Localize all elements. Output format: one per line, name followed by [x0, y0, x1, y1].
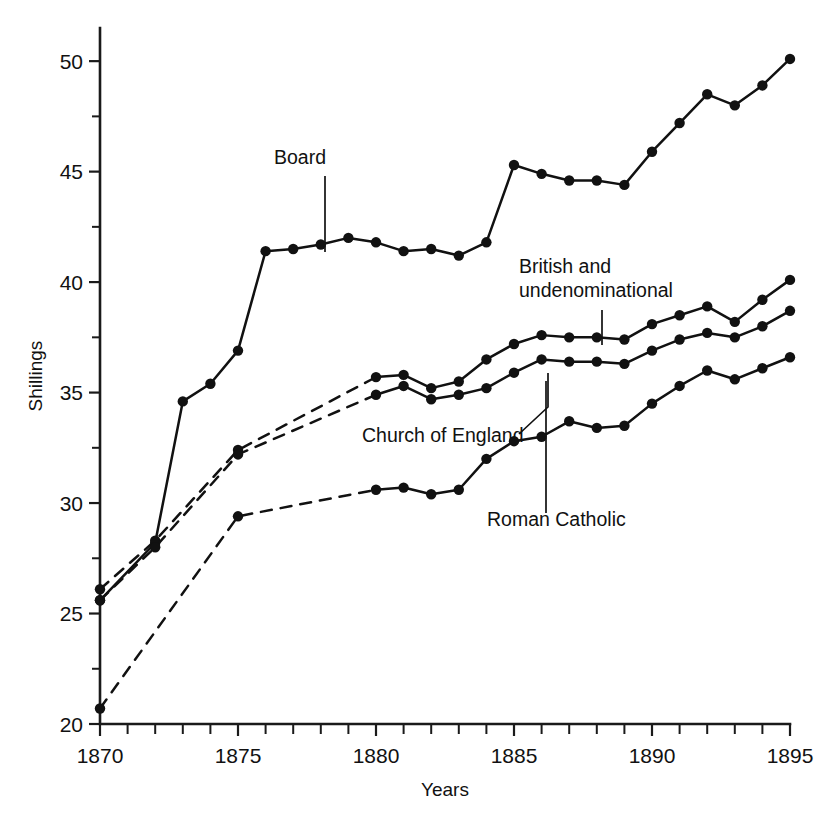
data-point-marker [233, 511, 243, 521]
data-point-marker [785, 54, 795, 64]
x-tick-label: 1875 [215, 744, 262, 767]
y-axis-title: Shillings [25, 341, 46, 412]
data-point-marker [481, 383, 491, 393]
data-point-marker [509, 367, 519, 377]
data-point-marker [647, 398, 657, 408]
data-point-marker [730, 100, 740, 110]
data-point-marker [592, 423, 602, 433]
data-point-marker [371, 372, 381, 382]
chart-root: 20253035404550187018751880188518901895 B… [0, 0, 826, 817]
data-point-marker [702, 328, 712, 338]
data-point-marker [288, 244, 298, 254]
data-point-marker [426, 489, 436, 499]
annotation-label-line: Roman Catholic [487, 508, 626, 530]
annotation-label-line: Church of England [362, 424, 524, 446]
data-point-marker [564, 416, 574, 426]
data-point-marker [702, 365, 712, 375]
x-tick-label: 1880 [353, 744, 400, 767]
data-point-marker [674, 118, 684, 128]
y-tick-label: 30 [60, 492, 83, 515]
data-point-marker [509, 339, 519, 349]
data-point-marker [564, 175, 574, 185]
annotation-label-line: British and [519, 255, 611, 277]
data-point-marker [481, 354, 491, 364]
data-point-marker [426, 383, 436, 393]
data-point-marker [757, 295, 767, 305]
y-tick-label: 20 [60, 713, 83, 736]
data-point-marker [647, 319, 657, 329]
data-point-marker [481, 454, 491, 464]
data-point-marker [205, 379, 215, 389]
data-point-marker [564, 356, 574, 366]
data-point-marker [785, 306, 795, 316]
data-point-marker [398, 370, 408, 380]
data-point-marker [674, 334, 684, 344]
data-point-marker [398, 246, 408, 256]
data-point-marker [260, 246, 270, 256]
data-point-marker [536, 354, 546, 364]
annotation-label-line: Board [274, 146, 326, 168]
data-point-marker [619, 421, 629, 431]
data-point-marker [702, 89, 712, 99]
data-point-marker [536, 330, 546, 340]
x-tick-label: 1895 [767, 744, 814, 767]
line-chart: 20253035404550187018751880188518901895 B… [0, 0, 826, 817]
data-point-marker [371, 485, 381, 495]
data-point-marker [178, 396, 188, 406]
data-point-marker [536, 169, 546, 179]
data-point-marker [426, 394, 436, 404]
x-tick-label: 1870 [77, 744, 124, 767]
data-point-marker [730, 332, 740, 342]
y-tick-label: 50 [60, 50, 83, 73]
data-point-marker [785, 352, 795, 362]
data-point-marker [426, 244, 436, 254]
data-point-marker [785, 275, 795, 285]
data-point-marker [647, 345, 657, 355]
data-point-marker [592, 332, 602, 342]
data-point-marker [398, 381, 408, 391]
data-point-marker [454, 250, 464, 260]
data-point-marker [150, 542, 160, 552]
data-point-marker [592, 175, 602, 185]
data-point-marker [233, 345, 243, 355]
data-point-marker [564, 332, 574, 342]
data-point-marker [371, 237, 381, 247]
x-axis-title: Years [421, 779, 469, 800]
data-point-marker [481, 237, 491, 247]
data-point-marker [454, 390, 464, 400]
y-tick-label: 25 [60, 602, 83, 625]
data-point-marker [647, 147, 657, 157]
data-point-marker [454, 485, 464, 495]
x-tick-label: 1890 [629, 744, 676, 767]
annotation-label: Board [274, 146, 326, 168]
data-point-marker [757, 80, 767, 90]
data-point-marker [592, 356, 602, 366]
data-point-marker [702, 301, 712, 311]
data-point-marker [509, 160, 519, 170]
data-point-marker [95, 595, 105, 605]
data-point-marker [674, 381, 684, 391]
data-point-marker [454, 376, 464, 386]
data-point-marker [371, 390, 381, 400]
data-point-marker [343, 233, 353, 243]
annotation-label: Church of England [362, 424, 524, 446]
data-point-marker [730, 374, 740, 384]
data-point-marker [619, 334, 629, 344]
data-point-marker [730, 317, 740, 327]
y-tick-label: 40 [60, 271, 83, 294]
data-point-marker [674, 310, 684, 320]
y-tick-label: 45 [60, 160, 83, 183]
y-tick-label: 35 [60, 381, 83, 404]
x-tick-label: 1885 [491, 744, 538, 767]
chart-background [0, 0, 826, 817]
annotation-label-line: undenominational [519, 279, 673, 301]
data-point-marker [757, 363, 767, 373]
data-point-marker [95, 703, 105, 713]
data-point-marker [95, 584, 105, 594]
annotation-label: Roman Catholic [487, 508, 626, 530]
data-point-marker [619, 359, 629, 369]
data-point-marker [398, 482, 408, 492]
data-point-marker [757, 321, 767, 331]
data-point-marker [233, 449, 243, 459]
data-point-marker [619, 180, 629, 190]
